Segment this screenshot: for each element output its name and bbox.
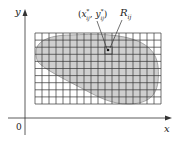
y-axis-arrow-icon (23, 9, 28, 16)
subrectangle-label: Rij (119, 7, 131, 21)
origin-label: 0 (16, 122, 22, 132)
sample-point-label: (x*ij, y*ij) (78, 8, 107, 22)
x-axis-arrow-icon (165, 116, 172, 121)
y-axis-label: y (14, 6, 21, 17)
x-axis-label: x (164, 123, 170, 134)
sample-point (107, 49, 110, 52)
double-integral-partition-diagram: y x 0 (x*ij, y*ij) Rij (0, 0, 184, 145)
